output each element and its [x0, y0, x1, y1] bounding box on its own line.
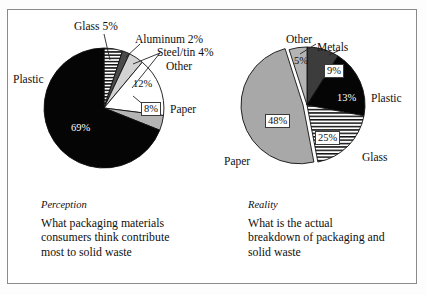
value-reality-plastic: 13% [337, 92, 356, 103]
caption-body-perception: What packaging materials consumers think… [41, 216, 216, 259]
label-perception-other: Other [166, 60, 192, 72]
label-reality-plastic: Plastic [371, 92, 402, 104]
value-reality-other: 5% [294, 55, 308, 66]
label-perception-paper: Paper [170, 103, 196, 115]
label-perception-plastic: Plastic [13, 73, 44, 85]
label-reality-metals: Metals [317, 41, 348, 53]
caption-body-reality: What is the actual breakdown of packagin… [248, 216, 423, 259]
value-perception-other: 12% [133, 78, 152, 89]
label-perception-steel-tin: Steel/tin 4% [157, 46, 214, 58]
figure-root: Glass 5% Aluminum 2% Steel/tin 4% Other … [0, 0, 426, 295]
value-reality-glass: 25% [315, 131, 340, 145]
label-perception-aluminum: Aluminum 2% [135, 33, 203, 45]
caption-title-reality: Reality [248, 199, 278, 210]
value-perception-plastic: 69% [71, 122, 90, 133]
value-reality-metals: 9% [324, 64, 344, 78]
label-reality-other: Other [286, 33, 312, 45]
label-reality-glass: Glass [362, 151, 388, 163]
value-reality-paper: 48% [265, 114, 290, 128]
label-perception-glass: Glass 5% [74, 20, 118, 32]
value-perception-paper: 8% [141, 102, 161, 116]
caption-title-perception: Perception [41, 199, 87, 210]
label-reality-paper: Paper [224, 155, 250, 167]
